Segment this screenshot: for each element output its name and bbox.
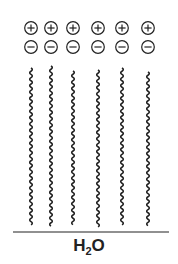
hydrocarbon-tail	[72, 71, 75, 225]
hydrocarbon-tail	[50, 66, 53, 226]
hydrocarbon-tail	[121, 68, 124, 225]
hydrocarbon-tail	[147, 72, 150, 226]
hydrocarbon-tail	[97, 70, 100, 227]
hydrocarbon-tail	[30, 68, 33, 225]
monolayer-diagram	[0, 0, 178, 264]
water-label: H2O	[0, 236, 178, 257]
